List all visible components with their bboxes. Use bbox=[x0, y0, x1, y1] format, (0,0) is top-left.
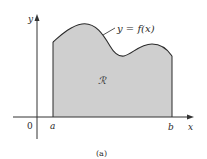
region-label: ℛ bbox=[98, 75, 107, 86]
x-axis-arrow-icon bbox=[187, 115, 194, 120]
curve-label-leader bbox=[103, 28, 115, 35]
figure-caption: (a) bbox=[96, 149, 107, 158]
origin-label: 0 bbox=[27, 121, 33, 131]
area-under-curve-diagram: y y = f(x) ℛ 0 a b x (a) bbox=[0, 0, 207, 159]
bound-a-label: a bbox=[50, 121, 55, 131]
bound-b-label: b bbox=[168, 122, 174, 132]
region-r-fill bbox=[53, 24, 172, 117]
y-axis-label: y bbox=[27, 14, 34, 24]
curve-label: y = f(x) bbox=[116, 23, 155, 34]
x-axis-label: x bbox=[188, 122, 193, 132]
y-axis-arrow-icon bbox=[35, 14, 40, 21]
